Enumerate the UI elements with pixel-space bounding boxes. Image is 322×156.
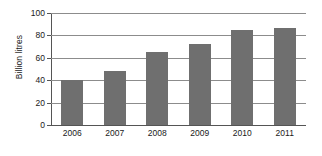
y-axis-tick-mark — [47, 103, 51, 104]
x-axis-tick-label: 2011 — [264, 129, 306, 138]
y-axis-tick-label: 20 — [15, 99, 45, 108]
bar-chart: Billion litres 020406080100 200620072008… — [0, 0, 322, 156]
y-axis-tick-label: 60 — [15, 54, 45, 63]
x-axis-tick-label: 2008 — [136, 129, 178, 138]
y-axis-tick-mark — [47, 80, 51, 81]
bar-2009 — [189, 44, 211, 125]
bar-2006 — [61, 80, 83, 125]
x-axis-tick-label: 2010 — [221, 129, 263, 138]
bar-2007 — [104, 71, 126, 125]
gridline — [51, 80, 306, 81]
bar-2010 — [231, 30, 253, 125]
y-axis-tick-label: 40 — [15, 76, 45, 85]
gridline — [51, 35, 306, 36]
plot-area — [51, 13, 306, 125]
gridline — [51, 125, 306, 126]
gridline — [51, 58, 306, 59]
y-axis-tick-label: 0 — [15, 121, 45, 130]
y-axis-tick-mark — [47, 125, 51, 126]
y-axis-tick-mark — [47, 35, 51, 36]
y-axis-tick-mark — [47, 58, 51, 59]
y-axis-tick-labels: 020406080100 — [14, 0, 45, 156]
y-axis-tick-label: 80 — [15, 31, 45, 40]
y-axis-tick-mark — [47, 13, 51, 14]
bar-2011 — [274, 28, 296, 125]
gridline — [51, 13, 306, 14]
x-axis-tick-labels: 200620072008200920102011 — [51, 129, 306, 145]
x-axis-tick-label: 2006 — [51, 129, 93, 138]
bar-2008 — [146, 52, 168, 125]
gridline — [51, 103, 306, 104]
x-axis-tick-label: 2009 — [179, 129, 221, 138]
x-axis-tick-label: 2007 — [94, 129, 136, 138]
y-axis-tick-label: 100 — [15, 9, 45, 18]
